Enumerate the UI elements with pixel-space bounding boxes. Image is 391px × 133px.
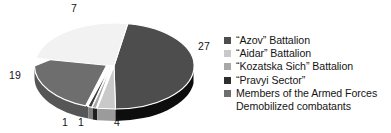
legend-item-pravyi-sector: “Pravyi Sector” xyxy=(224,74,391,87)
pie-label-azov: 27 xyxy=(198,41,210,52)
legend-swatch-icon xyxy=(224,37,231,44)
legend-swatch-icon xyxy=(224,90,231,97)
pie-label-kozatska: 1 xyxy=(78,117,84,128)
pie-slice-demobilized xyxy=(36,23,128,66)
pie-top-face xyxy=(35,23,195,109)
pie-label-aidar: 4 xyxy=(114,117,120,128)
pie-side-aidar xyxy=(97,108,115,121)
legend-item-kozatska-sich: “Kozatska Sich” Battalion xyxy=(224,60,391,73)
legend-swatch-icon xyxy=(224,63,231,70)
chart-legend: “Azov” Battalion “Aidar” Battalion “Koza… xyxy=(224,34,391,113)
pie-label-demobilized: 7 xyxy=(71,3,77,14)
legend-label: “Pravyi Sector” xyxy=(236,74,305,87)
legend-item-demobilized: Demobilized combatants xyxy=(224,100,391,113)
pie-side-pravyi xyxy=(93,108,97,121)
legend-label: Members of the Armed Forces xyxy=(236,87,377,100)
legend-swatch-icon xyxy=(224,50,231,57)
legend-label: “Azov” Battalion xyxy=(236,34,310,47)
legend-item-armed-forces: Members of the Armed Forces xyxy=(224,87,391,100)
legend-label: “Aidar” Battalion xyxy=(236,47,311,60)
legend-label: Demobilized combatants xyxy=(236,100,351,113)
pie-chart-figure: 7 19 1 1 4 27 “Azov” Battalion “Aidar” B… xyxy=(0,0,391,133)
pie-label-pravyi: 1 xyxy=(62,117,68,128)
legend-item-azov: “Azov” Battalion xyxy=(224,34,391,47)
pie-side-kozatska xyxy=(89,107,93,120)
pie-plot-area: 7 19 1 1 4 27 xyxy=(0,0,215,133)
legend-item-aidar: “Aidar” Battalion xyxy=(224,47,391,60)
legend-swatch-icon xyxy=(224,77,231,84)
pie-chart-svg xyxy=(0,0,215,133)
pie-label-members: 19 xyxy=(9,70,21,81)
legend-swatch-icon xyxy=(224,103,231,110)
legend-label: “Kozatska Sich” Battalion xyxy=(236,60,353,73)
